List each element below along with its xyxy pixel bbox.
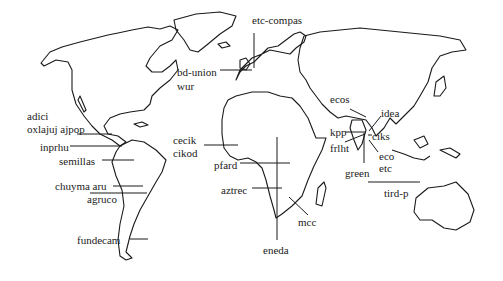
label-inprhu: inprhu [40,141,69,153]
label-oxlajuj-ajpop: oxlajuj ajpop [27,123,85,135]
asia-outline [298,28,466,136]
label-tird-p: tird-p [384,187,408,199]
label-eco: eco [379,150,394,162]
label-wur: wur [177,80,194,92]
label-semillas: semillas [59,155,95,167]
label-chuyma-aru: chuyma aru [55,180,107,192]
label-aztrec: aztrec [221,184,247,196]
label-agruco: agruco [87,193,117,205]
africa-outline [222,92,326,218]
label-fundecam: fundecam [77,234,120,246]
label-ciks: ciks [372,130,390,142]
greenland-outline [174,12,236,52]
southeast-asia-islands-outline [392,136,460,160]
britain-outline [240,58,250,70]
label-adici: adici [27,110,48,122]
label-pfard: pfard [214,159,237,171]
label-cecik: cecik [173,134,196,146]
label-green: green [345,167,369,179]
label-bd-union: bd-union [177,66,217,78]
madagascar-outline [316,182,326,206]
iceland-outline [218,42,230,48]
label-etc-compas: etc-compas [252,14,302,26]
europe-outline [236,32,306,80]
label-mcc: mcc [298,216,316,228]
caribbean-outline [134,122,148,127]
world-map [0,0,503,281]
japan-outline [434,76,446,96]
label-ecos: ecos [330,93,350,105]
australia-outline [414,182,474,230]
label-kpp: kpp [330,126,347,138]
label-idea: idea [381,107,399,119]
label-etc: etc [379,162,392,174]
label-eneda: eneda [263,244,289,256]
label-cikod: cikod [173,147,197,159]
label-frlht: frlht [330,142,349,154]
